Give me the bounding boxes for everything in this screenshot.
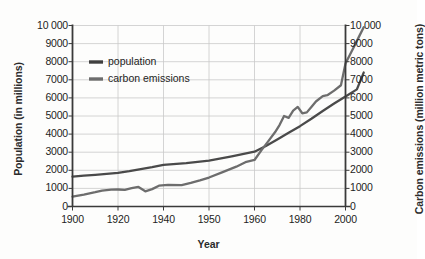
y-axis-right-tick-label: 10 000 <box>350 19 398 31</box>
x-axis-tick-label: 2000 <box>323 213 369 225</box>
y-axis-right-tick-label: 6000 <box>350 91 398 103</box>
y-axis-right-tick-label: 9000 <box>350 37 398 49</box>
x-axis-tick-label: 1920 <box>95 213 141 225</box>
y-axis-left-tick-label: 3000 <box>22 145 68 157</box>
y-axis-left-tick-label: 10 000 <box>22 19 68 31</box>
y-axis-left-tick-label: 4000 <box>22 127 68 139</box>
y-axis-left-tick-label: 8000 <box>22 55 68 67</box>
y-axis-left-tick-label: 2000 <box>22 163 68 175</box>
data-series-layer <box>73 27 364 196</box>
y-axis-right-tick-label: 5000 <box>350 109 398 121</box>
legend-label-population: population <box>108 55 156 67</box>
legend-label-carbon-emissions: carbon emissions <box>108 72 190 84</box>
gridlines <box>73 26 346 207</box>
y-axis-left-tick-label: 0 <box>22 200 68 212</box>
x-axis-tick-label: 1940 <box>141 213 187 225</box>
y-axis-left-tick-label: 5000 <box>22 109 68 121</box>
x-axis-tick-label: 1900 <box>50 213 96 225</box>
y-axis-left-tick-label: 6000 <box>22 91 68 103</box>
series-line-population <box>73 73 364 177</box>
y-axis-right-tick-label: 1000 <box>350 181 398 193</box>
y-axis-right-tick-label: 8000 <box>350 55 398 67</box>
y-axis-right-tick-label: 3000 <box>350 145 398 157</box>
y-axis-right-tick-label: 2000 <box>350 163 398 175</box>
x-axis-tick-label: 1980 <box>277 213 323 225</box>
y-axis-left-tick-label: 7000 <box>22 73 68 85</box>
legend-swatches <box>89 62 103 79</box>
x-axis-tick-label: 1950 <box>186 213 232 225</box>
x-axis-tick-label: 1960 <box>232 213 278 225</box>
y-axis-right-tick-label: 0 <box>350 200 398 212</box>
y-axis-left-tick-label: 1000 <box>22 181 68 193</box>
y-axis-left-tick-label: 9000 <box>22 37 68 49</box>
y-axis-right-tick-label: 4000 <box>350 127 398 139</box>
y-axis-right-tick-label: 7000 <box>350 73 398 85</box>
